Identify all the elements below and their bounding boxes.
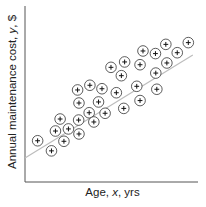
y-axis-label-text: Annual maintenance cost, xyxy=(6,34,18,170)
data-point-marker xyxy=(161,39,172,50)
x-axis-label-unit: , yrs xyxy=(118,186,140,198)
data-point-marker xyxy=(183,37,194,48)
data-point-marker xyxy=(85,80,96,91)
plot-area xyxy=(0,0,206,207)
data-point-marker xyxy=(59,136,70,147)
data-point-marker xyxy=(111,87,122,98)
data-point-marker xyxy=(74,129,85,140)
y-axis-variable: y xyxy=(6,28,18,34)
data-point-marker xyxy=(89,117,100,128)
scatter-chart: Annual maintenance cost, y, $ Age, x, yr… xyxy=(0,0,206,207)
data-point-marker xyxy=(135,59,146,70)
data-point-marker xyxy=(97,83,108,94)
data-point-marker xyxy=(162,58,173,69)
data-point-marker xyxy=(131,81,142,92)
data-point-marker xyxy=(50,126,61,137)
data-point-marker xyxy=(172,47,183,58)
data-point-marker xyxy=(73,115,84,126)
data-point-marker xyxy=(152,84,163,95)
data-point-marker xyxy=(100,108,111,119)
y-axis-label-unit: , $ xyxy=(6,15,18,28)
data-point-marker xyxy=(150,48,161,59)
data-point-marker xyxy=(63,124,74,135)
data-point-marker xyxy=(118,103,129,114)
x-axis-label-text: Age, xyxy=(85,186,112,198)
y-axis-label: Annual maintenance cost, y, $ xyxy=(2,8,22,176)
data-point-marker xyxy=(93,97,104,108)
data-point-marker xyxy=(135,95,146,106)
data-point-marker xyxy=(74,98,85,109)
data-point-marker xyxy=(32,135,43,146)
data-point-marker xyxy=(55,114,66,125)
data-point-marker xyxy=(150,68,161,79)
data-point-marker xyxy=(46,146,57,157)
data-point-marker xyxy=(106,62,117,73)
data-point-marker xyxy=(138,46,149,57)
x-axis-label: Age, x, yrs xyxy=(25,186,200,198)
data-point-marker xyxy=(119,57,130,68)
data-point-marker xyxy=(72,85,83,96)
data-point-marker xyxy=(116,70,127,81)
